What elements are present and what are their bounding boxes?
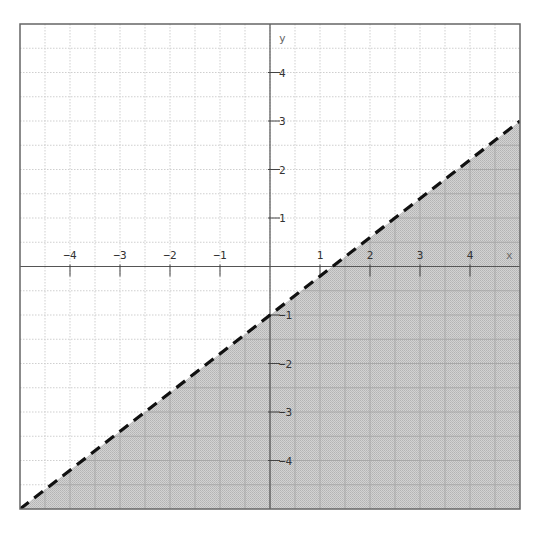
inequality-graph: −4−3−2−11234−4−3−2−11234 x y bbox=[0, 0, 534, 535]
y-axis-label: y bbox=[279, 32, 286, 45]
x-axis-label: x bbox=[506, 249, 513, 262]
x-tick-label: 2 bbox=[367, 249, 374, 262]
x-tick-label: −1 bbox=[213, 249, 226, 262]
y-tick-label: −3 bbox=[279, 406, 292, 419]
x-tick-label: −3 bbox=[113, 249, 126, 262]
y-tick-label: −4 bbox=[279, 455, 293, 468]
x-tick-label: −2 bbox=[163, 249, 176, 262]
y-tick-label: 3 bbox=[279, 115, 286, 128]
x-tick-label: 1 bbox=[317, 249, 324, 262]
y-tick-label: 2 bbox=[279, 164, 286, 177]
y-tick-label: 1 bbox=[279, 212, 286, 225]
y-tick-label: −1 bbox=[279, 309, 292, 322]
x-tick-label: 3 bbox=[417, 249, 424, 262]
y-tick-label: 4 bbox=[279, 67, 286, 80]
y-tick-label: −2 bbox=[279, 358, 292, 371]
x-tick-label: 4 bbox=[467, 249, 474, 262]
x-tick-label: −4 bbox=[63, 249, 77, 262]
